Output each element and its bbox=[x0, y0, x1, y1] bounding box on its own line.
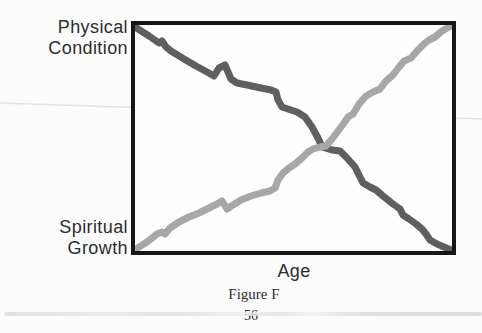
figure-caption: Figure F bbox=[204, 286, 304, 303]
page-number: 56 bbox=[211, 308, 291, 324]
y-axis-label-spiritual-growth: Spiritual Growth bbox=[18, 217, 128, 259]
plot-box bbox=[131, 21, 456, 255]
scanned-page: Physical Condition Spiritual Growth Age … bbox=[0, 0, 482, 333]
x-axis-label-age: Age bbox=[254, 261, 334, 282]
y-axis-label-physical-condition: Physical Condition bbox=[18, 17, 128, 59]
scan-artifact-streak bbox=[4, 312, 482, 316]
line-chart bbox=[135, 25, 452, 251]
